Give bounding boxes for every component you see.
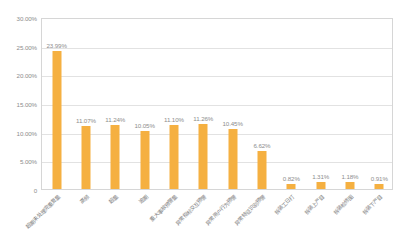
y-axis-tick: 0: [34, 187, 37, 194]
bar-value-label: 0.91%: [371, 175, 388, 182]
bar-value-label: 1.31%: [312, 173, 329, 180]
bar[interactable]: [199, 124, 208, 189]
bar-slot: 10.45%: [218, 19, 247, 189]
bar-slot: 1.31%: [306, 19, 335, 189]
bar-slot: 23.99%: [42, 19, 71, 189]
bar-slot: 11.24%: [101, 19, 130, 189]
x-axis-label-slot: 异常特征识别预警: [246, 191, 275, 250]
bar-value-label: 1.18%: [341, 173, 358, 180]
y-axis-tick: 30.00%: [17, 15, 37, 22]
bar[interactable]: [228, 129, 237, 189]
bar[interactable]: [316, 182, 325, 190]
x-axis-category-label: 拆装检修图: [331, 193, 354, 216]
bar-chart: 05.00%10.00%15.00%20.00%25.00%30.00% 23.…: [0, 0, 405, 250]
bar-value-label: 6.62%: [253, 142, 270, 149]
bar[interactable]: [375, 184, 384, 189]
x-axis-category-label: 超量: [107, 193, 120, 206]
bar-slot: 0.91%: [365, 19, 394, 189]
x-axis-label-slot: 超期未处理完重复量: [41, 191, 70, 250]
y-axis-tick: 5.00%: [20, 158, 37, 165]
bar-slot: 1.18%: [335, 19, 364, 189]
bar[interactable]: [169, 125, 178, 189]
x-axis-category-label: 高频: [78, 193, 91, 206]
bar[interactable]: [52, 51, 61, 189]
bar-value-label: 11.10%: [164, 116, 184, 123]
y-axis-tick: 25.00%: [17, 43, 37, 50]
x-axis-category-label: 拆装上产目: [302, 193, 325, 216]
bar-value-label: 11.24%: [105, 116, 125, 123]
plot-area: 23.99%11.07%11.24%10.05%11.10%11.26%10.4…: [41, 18, 393, 190]
y-axis-tick: 15.00%: [17, 101, 37, 108]
x-axis-label-slot: 超量: [100, 191, 129, 250]
y-axis-tick: 20.00%: [17, 72, 37, 79]
bar-slot: 6.62%: [247, 19, 276, 189]
x-axis-label-slot: 拆装下产目: [364, 191, 393, 250]
bar-value-label: 10.45%: [222, 120, 242, 127]
bar-slot: 10.05%: [130, 19, 159, 189]
bar-value-label: 11.07%: [76, 117, 96, 124]
x-axis-category-label: 拆装工日打: [273, 193, 296, 216]
y-axis: 05.00%10.00%15.00%20.00%25.00%30.00%: [0, 0, 40, 250]
bar-value-label: 23.99%: [46, 42, 66, 49]
x-axis-labels: 超期未处理完重复量高频超量逾期重大事故预警量异常指标交互预警异常用户行为预警异常…: [41, 191, 393, 250]
bar[interactable]: [140, 131, 149, 189]
bar[interactable]: [81, 126, 90, 189]
x-axis-label-slot: 拆装工日打: [276, 191, 305, 250]
y-axis-tick: 10.00%: [17, 129, 37, 136]
bar-value-label: 10.05%: [134, 122, 154, 129]
x-axis-label-slot: 高频: [70, 191, 99, 250]
bar[interactable]: [257, 151, 266, 189]
x-axis-label-slot: 拆装上产目: [305, 191, 334, 250]
bar-value-label: 11.26%: [193, 115, 213, 122]
bar-slot: 11.10%: [159, 19, 188, 189]
bar[interactable]: [345, 182, 354, 189]
bar-slot: 11.26%: [189, 19, 218, 189]
bar-slot: 11.07%: [71, 19, 100, 189]
bar[interactable]: [111, 125, 120, 189]
bar-value-label: 0.82%: [283, 175, 300, 182]
x-axis-category-label: 逾期: [137, 193, 150, 206]
bar[interactable]: [287, 184, 296, 189]
bar-slot: 0.82%: [277, 19, 306, 189]
x-axis-category-label: 拆装下产目: [361, 193, 384, 216]
bar-series: 23.99%11.07%11.24%10.05%11.10%11.26%10.4…: [42, 19, 392, 189]
x-axis-label-slot: 拆装检修图: [334, 191, 363, 250]
